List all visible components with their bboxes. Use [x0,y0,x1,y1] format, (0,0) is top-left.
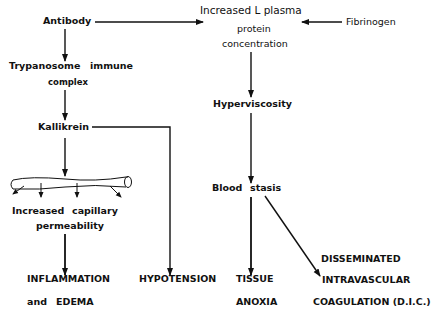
node-and: and [27,297,47,307]
node-inflammation: INFLAMMATION [27,274,110,284]
node-kallikrein: Kallikrein [38,122,89,132]
node-stasis: stasis [250,183,281,193]
node-trypanosome: Trypanosome [9,61,80,71]
node-permeability: permeability [36,221,104,231]
node-tissue: TISSUE [236,274,273,284]
node-intravascular: INTRAVASCULAR [322,275,410,285]
node-increased: Increased [12,206,64,216]
node-anoxia: ANOXIA [236,297,277,307]
node-capillary: capillary [72,206,118,216]
capillary-vessel-icon [11,177,132,190]
node-fibrinogen: Fibrinogen [346,17,396,27]
node-plasma-line2: protein [237,24,271,34]
node-disseminated: DISSEMINATED [321,254,401,264]
node-immune: immune [90,61,133,71]
node-plasma-line1: Increased L plasma [200,5,302,16]
node-blood: Blood [212,183,242,193]
node-antibody: Antibody [43,16,91,26]
arrow-stasis-to-dic [265,196,320,276]
node-complex: complex [48,78,88,87]
node-plasma-line3: concentration [222,39,288,49]
node-hypotension: HYPOTENSION [139,274,216,284]
node-hyperviscosity: Hyperviscosity [213,99,292,109]
node-edema: EDEMA [56,297,94,307]
node-coagulation: COAGULATION (D.I.C.) [313,297,431,307]
arrow-kallikrein-to-hypotension [92,127,170,275]
